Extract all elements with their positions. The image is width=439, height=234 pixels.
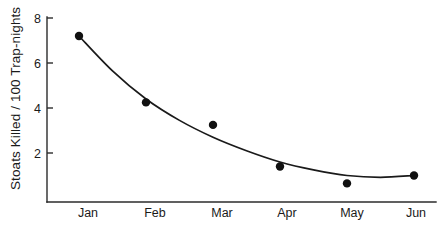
data-point-apr — [276, 162, 284, 170]
x-tick-label-jan: Jan — [78, 206, 98, 220]
data-point-jun — [410, 171, 418, 179]
data-point-mar — [209, 121, 217, 129]
chart-container: Stoats Killed / 100 Trap-nights 8 6 4 2 … — [0, 0, 439, 234]
y-tick-label-8: 8 — [34, 12, 41, 26]
chart-background — [0, 0, 439, 234]
x-tick-label-apr: Apr — [277, 206, 296, 220]
x-tick-label-jun: Jun — [406, 206, 426, 220]
y-tick-label-4: 4 — [34, 102, 41, 116]
y-tick-label-6: 6 — [34, 57, 41, 71]
y-tick-label-2: 2 — [34, 147, 41, 161]
x-tick-label-mar: Mar — [211, 206, 233, 220]
y-axis-label: Stoats Killed / 100 Trap-nights — [8, 7, 23, 190]
x-tick-label-feb: Feb — [144, 206, 166, 220]
x-tick-label-may: May — [340, 206, 364, 220]
data-point-may — [343, 179, 351, 187]
data-point-jan — [75, 32, 83, 40]
stoats-trend-chart: Stoats Killed / 100 Trap-nights 8 6 4 2 … — [0, 0, 439, 234]
data-point-feb — [142, 98, 150, 106]
